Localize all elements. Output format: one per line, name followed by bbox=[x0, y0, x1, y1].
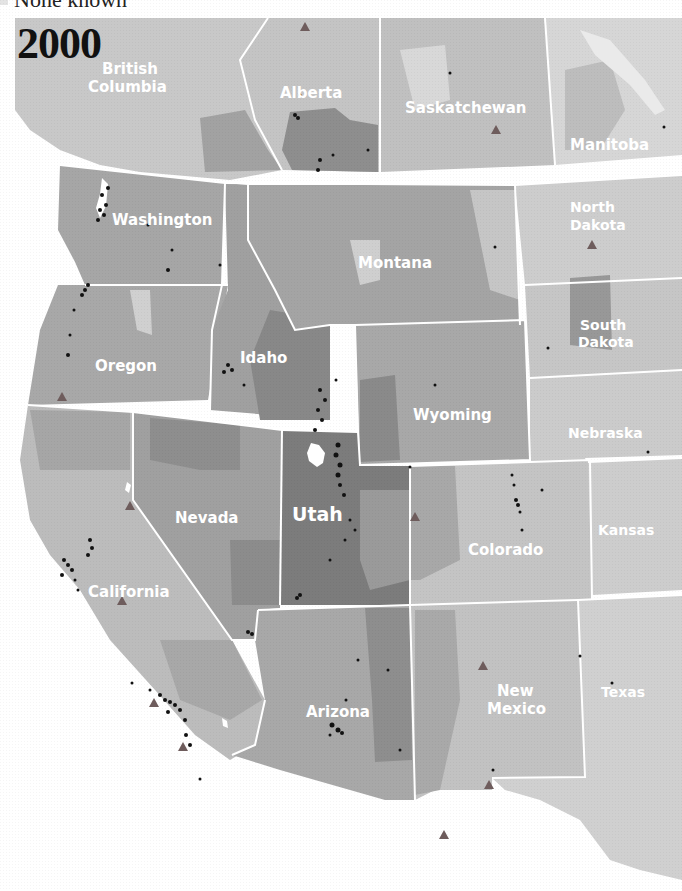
label-utah: Utah bbox=[292, 503, 343, 525]
label-washington: Washington bbox=[112, 211, 212, 229]
label-oregon: Oregon bbox=[95, 357, 157, 375]
label-texas: Texas bbox=[601, 684, 645, 700]
label-montana: Montana bbox=[358, 254, 432, 272]
label-british-columbia-1: British bbox=[102, 60, 158, 78]
label-colorado: Colorado bbox=[468, 541, 543, 559]
label-alberta: Alberta bbox=[280, 84, 342, 102]
label-arizona: Arizona bbox=[306, 703, 370, 721]
label-british-columbia-2: Columbia bbox=[88, 78, 167, 96]
label-saskatchewan: Saskatchewan bbox=[405, 99, 527, 117]
label-california: California bbox=[88, 583, 170, 601]
label-new-mexico-2: Mexico bbox=[487, 700, 546, 718]
label-nevada: Nevada bbox=[175, 509, 239, 527]
year-title: 2000 bbox=[17, 18, 101, 69]
label-south-dakota-1: South bbox=[580, 317, 626, 333]
label-nebraska: Nebraska bbox=[568, 425, 643, 441]
paper-texture bbox=[0, 0, 682, 891]
label-wyoming: Wyoming bbox=[413, 406, 492, 424]
choropleth-map: British Columbia Alberta Saskatchewan Ma… bbox=[0, 0, 682, 891]
label-manitoba: Manitoba bbox=[570, 136, 649, 154]
label-north-dakota-1: North bbox=[570, 199, 615, 215]
label-new-mexico-1: New bbox=[497, 682, 534, 700]
label-idaho: Idaho bbox=[240, 349, 287, 367]
label-south-dakota-2: Dakota bbox=[578, 334, 634, 350]
label-kansas: Kansas bbox=[598, 522, 654, 538]
label-north-dakota-2: Dakota bbox=[570, 217, 626, 233]
